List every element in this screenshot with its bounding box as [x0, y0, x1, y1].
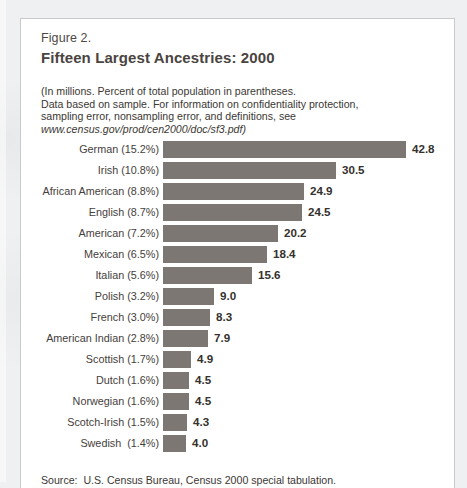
chart-row: Scottish (1.7%)4.9: [21, 351, 456, 372]
bar: [163, 246, 267, 263]
bar-category-label: German (15.2%): [21, 143, 159, 156]
bar: [163, 330, 208, 347]
subtitle-line-3: sampling error, nonsampling error, and d…: [41, 110, 438, 123]
bar-category-label: Italian (5.6%): [21, 269, 159, 282]
bar-category-label: African American (8.8%): [21, 185, 159, 198]
bar: [163, 225, 278, 242]
bar: [163, 204, 302, 221]
bar: [163, 162, 336, 179]
bar-value-label: 30.5: [342, 163, 365, 177]
bar: [163, 141, 406, 158]
figure-number: Figure 2.: [41, 31, 440, 46]
bar-category-label: English (8.7%): [21, 206, 159, 219]
bar: [163, 414, 187, 431]
bar-value-label: 20.2: [284, 226, 307, 240]
bar: [163, 435, 186, 452]
bar-category-label: Scottish (1.7%): [21, 353, 159, 366]
bar-category-label: Polish (3.2%): [21, 290, 159, 303]
bar-category-label: Mexican (6.5%): [21, 248, 159, 261]
chart-row: American (7.2%)20.2: [21, 225, 456, 246]
chart-row: Norwegian (1.6%)4.5: [21, 393, 456, 414]
bar-value-label: 24.9: [310, 184, 333, 198]
bar-category-label: Norwegian (1.6%): [21, 395, 159, 408]
bar-value-label: 4.5: [195, 394, 211, 408]
figure-title: Fifteen Largest Ancestries: 2000: [41, 48, 440, 67]
bar-category-label: American (7.2%): [21, 227, 159, 240]
bar: [163, 372, 189, 389]
bar: [163, 309, 210, 326]
chart-row: Irish (10.8%)30.5: [21, 162, 456, 183]
bar-category-label: Swedish (1.4%): [21, 437, 159, 450]
bar: [163, 183, 304, 200]
bar-value-label: 4.5: [195, 373, 211, 387]
bar: [163, 393, 189, 410]
figure-subtitle: (In millions. Percent of total populatio…: [41, 85, 438, 135]
bar-value-label: 4.3: [193, 415, 209, 429]
chart-row: French (3.0%)8.3: [21, 309, 456, 330]
bar-value-label: 42.8: [412, 142, 435, 156]
chart-row: Italian (5.6%)15.6: [21, 267, 456, 288]
subtitle-source-url: www.census.gov/prod/cen2000/doc/sf3.pdf): [41, 123, 438, 136]
bar: [163, 288, 214, 305]
chart-row: Mexican (6.5%)18.4: [21, 246, 456, 267]
bar: [163, 267, 252, 284]
bar-category-label: Scotch-Irish (1.5%): [21, 416, 159, 429]
bar-value-label: 24.5: [308, 205, 331, 219]
source-note: Source: U.S. Census Bureau, Census 2000 …: [41, 474, 444, 487]
chart-row: Scotch-Irish (1.5%)4.3: [21, 414, 456, 435]
chart-row: African American (8.8%)24.9: [21, 183, 456, 204]
chart-row: English (8.7%)24.5: [21, 204, 456, 225]
chart-row: American Indian (2.8%)7.9: [21, 330, 456, 351]
bar-value-label: 7.9: [214, 331, 230, 345]
bar-value-label: 8.3: [216, 310, 232, 324]
bar: [163, 351, 191, 368]
chart-row: Swedish (1.4%)4.0: [21, 435, 456, 456]
bar-category-label: Irish (10.8%): [21, 164, 159, 177]
bar-category-label: American Indian (2.8%): [21, 332, 159, 345]
figure-header: Figure 2. Fifteen Largest Ancestries: 20…: [41, 31, 440, 67]
bar-value-label: 4.9: [197, 352, 213, 366]
subtitle-line-1: (In millions. Percent of total populatio…: [41, 85, 438, 98]
chart-row: Polish (3.2%)9.0: [21, 288, 456, 309]
chart-row: Dutch (1.6%)4.5: [21, 372, 456, 393]
bar-value-label: 15.6: [258, 268, 281, 282]
ancestry-bar-chart: German (15.2%)42.8Irish (10.8%)30.5Afric…: [21, 141, 456, 456]
subtitle-line-2: Data based on sample. For information on…: [41, 98, 438, 111]
bar-category-label: French (3.0%): [21, 311, 159, 324]
bar-value-label: 4.0: [192, 436, 208, 450]
bar-value-label: 18.4: [273, 247, 296, 261]
bar-category-label: Dutch (1.6%): [21, 374, 159, 387]
chart-row: German (15.2%)42.8: [21, 141, 456, 162]
figure-frame: Figure 2. Fifteen Largest Ancestries: 20…: [20, 18, 455, 488]
bar-value-label: 9.0: [220, 289, 236, 303]
